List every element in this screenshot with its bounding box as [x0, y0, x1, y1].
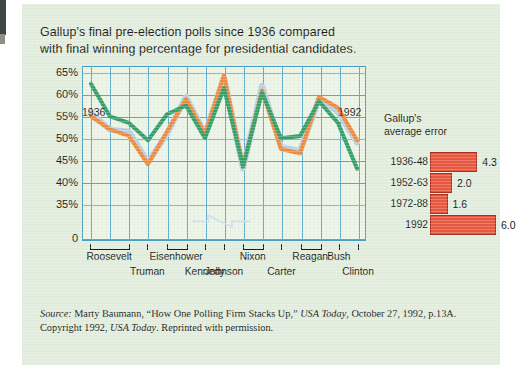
error-row-label: 1992: [405, 219, 428, 230]
x-axis-start-year: 1936: [82, 106, 105, 118]
figure-title-line-1: Gallup's final pre-election polls since …: [40, 24, 460, 41]
y-tick-65pct: 65%: [56, 66, 78, 78]
figure-title: Gallup's final pre-election polls since …: [40, 24, 460, 58]
error-bar-value: 2.0: [457, 177, 472, 189]
copyright-publication: USA Today: [110, 322, 156, 333]
error-bar-value: 6.0: [501, 219, 516, 231]
y-tick-0: 0: [72, 232, 78, 244]
y-tick-60pct: 60%: [56, 88, 78, 100]
president-label-bush: Bush: [299, 251, 379, 262]
figure-title-line-2: with final winning percentage for presid…: [40, 41, 460, 58]
average-error-title-line-1: Gallup's: [384, 112, 514, 125]
axis-break-zigzag: [192, 215, 250, 227]
source-line-2: Copyright 1992, USA Today. Reprinted wit…: [40, 321, 480, 335]
y-tick-55pct: 55%: [56, 110, 78, 122]
plot-area: [82, 66, 366, 241]
error-row: 1936-484.3: [384, 152, 514, 173]
average-error-title-line-2: average error: [384, 125, 514, 138]
source-author: Marty Baumann,: [72, 308, 147, 319]
error-bar: [430, 152, 477, 172]
average-error-bars: 1936-484.31952-632.01972-881.619926.0: [384, 152, 514, 236]
average-error-panel: Gallup's average error 1936-484.31952-63…: [384, 112, 514, 247]
error-row-label: 1952-63: [391, 177, 428, 188]
scan-edge-artifact-lower: [0, 34, 5, 44]
y-tick-35pct: 35%: [56, 198, 78, 210]
x-tick-bracket: [90, 244, 130, 250]
figure-paper-panel: Gallup's final pre-election polls since …: [22, 4, 500, 365]
error-bar: [430, 215, 496, 235]
error-row-label: 1972-88: [391, 198, 428, 209]
error-row-label: 1936-48: [391, 156, 428, 167]
president-label-carter: Carter: [241, 266, 321, 277]
y-tick-40pct: 40%: [56, 176, 78, 188]
permission-text: . Reprinted with permission.: [156, 322, 273, 333]
source-citation: Source: Marty Baumann, “How One Polling …: [40, 307, 480, 334]
source-line-1: Source: Marty Baumann, “How One Polling …: [40, 307, 480, 321]
y-axis-tick-labels: 65%60%55%50%45%40%35%0: [38, 64, 78, 244]
source-publication: USA Today: [300, 308, 346, 319]
error-row: 1972-881.6: [384, 194, 514, 215]
error-row: 19926.0: [384, 215, 514, 236]
copyright-text: Copyright 1992,: [40, 322, 110, 333]
y-tick-50pct: 50%: [56, 132, 78, 144]
x-tick-bracket: [301, 244, 322, 250]
y-tick-45pct: 45%: [56, 154, 78, 166]
president-label-clinton: Clinton: [318, 266, 398, 277]
error-bar-value: 4.3: [482, 156, 497, 168]
source-article-title: “How One Polling Firm Stacks Up,”: [147, 308, 298, 319]
error-bar: [430, 194, 448, 214]
x-axis-president-labels: RooseveltEisenhowerNixonReaganBushTruman…: [82, 244, 366, 306]
error-row: 1952-632.0: [384, 173, 514, 194]
x-axis-end-year: 1992: [338, 106, 361, 118]
error-bar-value: 1.6: [453, 198, 468, 210]
series-lines: [83, 67, 365, 240]
x-tick-bracket: [167, 244, 188, 250]
president-label-eisenhower: Eisenhower: [136, 251, 216, 262]
x-tick-bracket: [243, 244, 264, 250]
line-chart: 65%60%55%50%45%40%35%0 RooseveltEisenhow…: [38, 64, 378, 249]
average-error-title: Gallup's average error: [384, 112, 514, 138]
scan-edge-artifact: [0, 0, 6, 35]
source-label: Source:: [40, 308, 72, 319]
source-date: , October 27, 1992, p.13A.: [346, 308, 456, 319]
error-bar: [430, 173, 452, 193]
